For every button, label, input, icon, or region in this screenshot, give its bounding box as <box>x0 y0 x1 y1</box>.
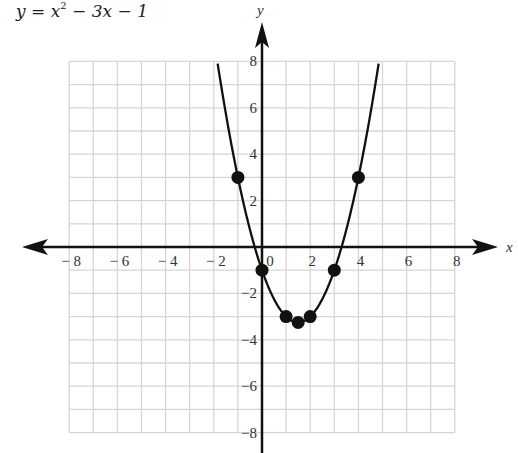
data-point <box>304 310 317 323</box>
x-tick-label: − 2 <box>206 253 226 269</box>
data-point <box>231 171 244 184</box>
y-axis-label: y <box>255 2 264 18</box>
x-tick-label: 4 <box>357 253 365 269</box>
parabola-chart: xy − 8− 6− 4− 2024688642−2−4−6−8 <box>0 0 518 453</box>
x-tick-label: − 8 <box>61 253 81 269</box>
x-tick-label: 6 <box>405 253 413 269</box>
y-tick-label: 2 <box>250 193 258 209</box>
x-axis-label: x <box>505 239 513 255</box>
data-point <box>292 316 305 329</box>
x-tick-label: 8 <box>453 253 461 269</box>
y-tick-label: −6 <box>241 378 257 394</box>
data-point <box>352 171 365 184</box>
y-tick-label: −2 <box>241 285 257 301</box>
y-tick-label: 4 <box>250 146 258 162</box>
y-tick-label: −4 <box>241 332 257 348</box>
y-tick-label: −8 <box>241 425 257 441</box>
data-point <box>256 264 269 277</box>
x-tick-label: − 6 <box>110 253 130 269</box>
x-tick-label: − 4 <box>158 253 178 269</box>
data-point <box>328 264 341 277</box>
y-tick-label: 6 <box>250 100 258 116</box>
data-point <box>280 310 293 323</box>
parabola-curve <box>218 64 379 323</box>
x-tick-label: 2 <box>308 253 316 269</box>
y-tick-label: 8 <box>250 53 258 69</box>
axes: xy <box>22 2 513 453</box>
parabola-path <box>218 64 379 323</box>
